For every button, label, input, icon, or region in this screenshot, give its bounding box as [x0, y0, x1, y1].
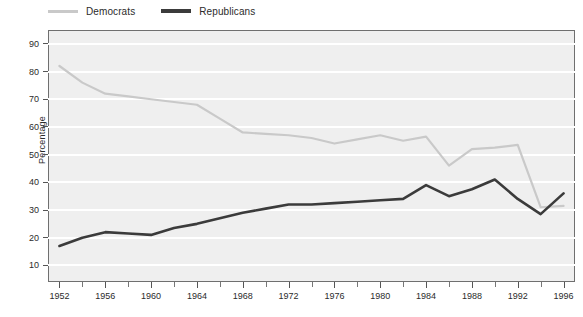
- y-axis-tick-label: 20: [29, 233, 39, 243]
- y-axis-tick: 20: [29, 233, 48, 243]
- y-axis-tick-label: 50: [29, 150, 39, 160]
- x-axis-tick-mark: [105, 282, 106, 288]
- x-axis-ticks: 1952195619601964196819721976198019841988…: [48, 282, 575, 317]
- legend-swatch-democrats: [48, 10, 78, 13]
- x-axis-tick-label: 1992: [508, 291, 528, 301]
- x-axis-tick-mark: [564, 282, 565, 288]
- legend-swatch-republicans: [161, 9, 191, 13]
- y-axis-tick-label: 70: [29, 94, 39, 104]
- plot-area: [48, 30, 575, 282]
- y-axis-tick-label: 60: [29, 122, 39, 132]
- x-axis-tick-mark: [334, 282, 335, 288]
- y-axis-tick: 70: [29, 94, 48, 104]
- x-axis-tick-mark-minor: [128, 282, 129, 287]
- x-axis-tick-label: 1972: [279, 291, 299, 301]
- y-axis-tick-label: 30: [29, 205, 39, 215]
- x-axis-tick-mark: [151, 282, 152, 288]
- legend-label-republicans: Republicans: [199, 6, 255, 17]
- x-axis-tick-label: 1988: [462, 291, 482, 301]
- x-axis-tick-mark: [426, 282, 427, 288]
- legend-label-democrats: Democrats: [86, 6, 135, 17]
- x-axis-tick-mark-minor: [403, 282, 404, 287]
- x-axis-tick-label: 1976: [324, 291, 344, 301]
- y-axis-tick-label: 90: [29, 39, 39, 49]
- y-axis-ticks: 102030405060708090: [0, 30, 48, 282]
- x-axis-tick-mark: [380, 282, 381, 288]
- x-axis-tick-mark-minor: [220, 282, 221, 287]
- chart-legend: Democrats Republicans: [0, 0, 583, 22]
- x-axis-tick-label: 1952: [49, 291, 69, 301]
- x-axis-tick-label: 1980: [370, 291, 390, 301]
- y-axis-tick: 60: [29, 122, 48, 132]
- x-axis-tick-mark: [59, 282, 60, 288]
- x-axis-tick-label: 1964: [187, 291, 207, 301]
- x-axis-tick-label: 1960: [141, 291, 161, 301]
- x-axis-tick-label: 1956: [95, 291, 115, 301]
- x-axis-tick-mark-minor: [266, 282, 267, 287]
- y-axis-tick-label: 80: [29, 67, 39, 77]
- y-axis-tick-label: 40: [29, 177, 39, 187]
- x-axis-tick-mark-minor: [312, 282, 313, 287]
- x-axis-tick-mark: [243, 282, 244, 288]
- series-line-republicans: [59, 180, 563, 246]
- x-axis-tick-mark: [197, 282, 198, 288]
- x-axis-tick-mark-minor: [357, 282, 358, 287]
- series-line-democrats: [59, 66, 563, 207]
- y-axis-tick: 90: [29, 39, 48, 49]
- x-axis-tick-label: 1984: [416, 291, 436, 301]
- x-axis-tick-label: 1968: [233, 291, 253, 301]
- x-axis-tick-mark: [289, 282, 290, 288]
- x-axis-tick-mark-minor: [449, 282, 450, 287]
- y-axis-tick: 40: [29, 177, 48, 187]
- series-lines: [48, 30, 575, 282]
- x-axis-tick-mark-minor: [174, 282, 175, 287]
- legend-item-democrats: Democrats: [48, 6, 135, 17]
- x-axis-tick-mark-minor: [495, 282, 496, 287]
- y-axis-tick-label: 10: [29, 260, 39, 270]
- x-axis-tick-mark-minor: [541, 282, 542, 287]
- y-axis-tick: 30: [29, 205, 48, 215]
- chart-root: Democrats Republicans Percentage 1020304…: [0, 0, 583, 317]
- x-axis-tick-mark-minor: [82, 282, 83, 287]
- x-axis-tick-mark: [472, 282, 473, 288]
- y-axis-tick: 50: [29, 150, 48, 160]
- x-axis-tick-label: 1996: [554, 291, 574, 301]
- legend-item-republicans: Republicans: [161, 6, 255, 17]
- y-axis-tick: 10: [29, 260, 48, 270]
- x-axis-tick-mark: [518, 282, 519, 288]
- y-axis-tick: 80: [29, 67, 48, 77]
